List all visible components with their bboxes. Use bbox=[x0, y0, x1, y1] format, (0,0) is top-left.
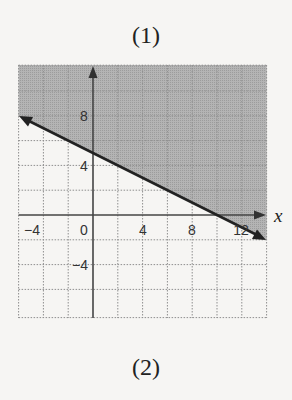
x-tick-labels: −4 0 4 8 12 bbox=[24, 222, 249, 238]
svg-text:12: 12 bbox=[233, 222, 249, 238]
figure-label-2: (2) bbox=[0, 354, 292, 381]
svg-text:4: 4 bbox=[80, 158, 88, 174]
svg-text:−4: −4 bbox=[72, 257, 88, 273]
svg-text:4: 4 bbox=[139, 222, 147, 238]
svg-text:−4: −4 bbox=[24, 222, 40, 238]
inequality-graph: −4 0 4 8 12 8 4 −4 x bbox=[0, 0, 292, 400]
x-axis-label: x bbox=[273, 205, 283, 226]
svg-text:8: 8 bbox=[188, 222, 196, 238]
svg-text:8: 8 bbox=[80, 108, 88, 124]
svg-text:0: 0 bbox=[80, 222, 88, 238]
